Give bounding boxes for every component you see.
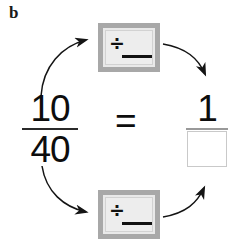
arrow-denominator-in <box>42 166 86 212</box>
right-fraction: 1 <box>186 92 228 167</box>
right-fraction-denominator-input[interactable] <box>187 131 227 167</box>
operation-blank-rule[interactable] <box>122 55 152 58</box>
operation-box-denominator[interactable]: ÷ <box>98 190 160 239</box>
left-fraction-denominator: 40 <box>22 133 78 167</box>
figure-canvas: b ÷ ÷ 10 40 = 1 <box>0 0 237 250</box>
arrow-denominator-out <box>163 188 204 217</box>
operation-box-numerator[interactable]: ÷ <box>98 23 160 72</box>
left-fraction: 10 40 <box>22 92 78 167</box>
divide-icon: ÷ <box>109 201 125 220</box>
equals-sign: = <box>115 104 137 138</box>
right-fraction-numerator: 1 <box>186 92 228 126</box>
left-fraction-numerator: 10 <box>22 92 78 126</box>
arrow-numerator-out <box>163 44 205 74</box>
divide-icon: ÷ <box>109 34 125 53</box>
operation-blank-rule[interactable] <box>122 222 152 225</box>
